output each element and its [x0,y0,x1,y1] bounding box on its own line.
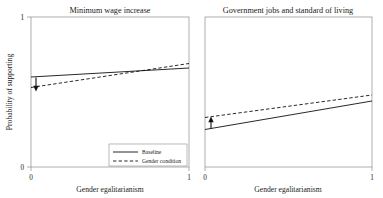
plot-frame-right [205,17,372,167]
xtick-label-left-1: 1 [187,174,191,182]
annotation-arrow-down-left [33,78,38,92]
xtick-label-right-1: 1 [370,174,374,182]
annotation-arrow-up-right [208,117,213,130]
ytick-label-left-0: 0 [20,164,24,172]
legend-label-baseline: Baseline [142,149,162,155]
figure-container: Minimum wage increase 1 0 0 1 Gender ega… [0,0,383,198]
xaxis-label-left: Gender egalitarianism [76,185,143,194]
plot-frame-left [31,17,189,167]
xtick-label-right-0: 0 [203,174,207,182]
panel-minimum-wage: Minimum wage increase 1 0 0 1 Gender ega… [5,6,191,194]
series-line-baseline-right [205,101,372,130]
xtick-label-left-0: 0 [29,174,33,182]
legend-label-gender: Gender condition [142,158,181,164]
yaxis-label: Probability of supporting [5,54,14,131]
panel-title-left: Minimum wage increase [70,6,151,15]
legend-left: Baseline Gender condition [109,144,187,166]
ytick-label-left-1: 1 [20,14,24,22]
two-panel-line-chart: Minimum wage increase 1 0 0 1 Gender ega… [0,0,383,198]
panel-government-jobs: Government jobs and standard of living 0… [203,6,374,194]
series-line-gender-right [205,95,372,118]
xaxis-label-right: Gender egalitarianism [254,185,321,194]
panel-title-right: Government jobs and standard of living [223,6,353,15]
